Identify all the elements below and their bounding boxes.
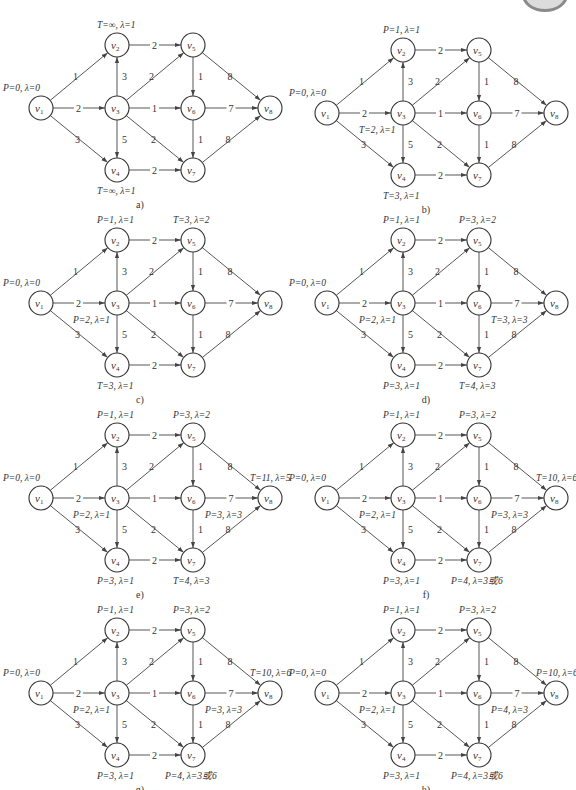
annotation-v1: P=0, λ=0 <box>288 278 326 288</box>
edge-weight-v1-v4: 3 <box>75 329 80 340</box>
edge-v3-v5 <box>126 53 184 101</box>
annotation-v2: P=1, λ=1 <box>96 215 134 225</box>
node-v3: v3 <box>391 291 415 315</box>
edge-weight-v1-v4: 3 <box>75 134 80 145</box>
edge-weight-v1-v4: 3 <box>361 524 366 535</box>
edge-weight-v3-v2: 3 <box>122 71 127 82</box>
edge-weight-v3-v4: 5 <box>408 524 413 535</box>
node-v2: v2 <box>391 423 415 447</box>
edge-weight-v3-v2: 3 <box>122 656 127 667</box>
edge-weight-v1-v2: 1 <box>73 71 78 82</box>
edge-v3-v5 <box>412 248 470 296</box>
annotation-v3: P=2, λ=1 <box>72 705 110 715</box>
edge-weight-v3-v4: 5 <box>408 139 413 150</box>
edge-weight-v7-v8: 8 <box>226 524 231 535</box>
node-v4: v4 <box>391 548 415 572</box>
annotation-v6: P=3, λ=3 <box>204 510 242 520</box>
edge-weight-v1-v4: 3 <box>361 139 366 150</box>
node-v8: v8 <box>258 291 282 315</box>
edge-weight-v3-v7: 2 <box>151 134 156 145</box>
edge-weight-v6-v8: 7 <box>515 298 520 309</box>
node-v3: v3 <box>105 486 129 510</box>
edge-weight-v1-v4: 3 <box>75 719 80 730</box>
edge-weight-v1-v3: 2 <box>362 298 367 309</box>
annotation-v6: P=3, λ=3 <box>204 705 242 715</box>
node-v1: v1 <box>29 681 53 705</box>
edge-weight-v5-v6: 1 <box>198 266 203 277</box>
edge-weight-v5-v6: 1 <box>484 656 489 667</box>
node-v3: v3 <box>105 96 129 120</box>
annotation-v5: T=3, λ=2 <box>173 215 210 225</box>
node-v8: v8 <box>258 681 282 705</box>
node-v6: v6 <box>181 681 205 705</box>
node-v1: v1 <box>315 681 339 705</box>
edge-weight-v6-v7: 1 <box>484 139 489 150</box>
edge-weight-v1-v3: 2 <box>76 298 81 309</box>
annotation-v8: P=10, λ=6 <box>535 668 576 678</box>
node-v5: v5 <box>181 423 205 447</box>
edge-v1-v2 <box>336 58 394 106</box>
node-v6: v6 <box>181 96 205 120</box>
edge-weight-v4-v7: 2 <box>152 165 157 176</box>
edge-weight-v3-v4: 5 <box>122 329 127 340</box>
edge-weight-v5-v8: 8 <box>514 266 519 277</box>
node-v6: v6 <box>467 291 491 315</box>
node-v8: v8 <box>544 291 568 315</box>
node-v6: v6 <box>467 681 491 705</box>
edge-weight-v2-v5: 2 <box>438 625 443 636</box>
edge-weight-v6-v7: 1 <box>484 719 489 730</box>
graph-panel-e: 123352212211878v1v2v3v4v5v6v7v8P=0, λ=0P… <box>0 390 290 585</box>
edge-weight-v7-v8: 8 <box>512 719 517 730</box>
node-v4: v4 <box>391 163 415 187</box>
node-v1: v1 <box>315 101 339 125</box>
edge-weight-v5-v6: 1 <box>484 461 489 472</box>
graph-panel-c: 123352212211878v1v2v3v4v5v6v7v8P=0, λ=0P… <box>0 195 290 390</box>
annotation-v1: P=0, λ=0 <box>288 88 326 98</box>
edge-weight-v5-v6: 1 <box>198 461 203 472</box>
annotation-v1: P=0, λ=0 <box>2 473 40 483</box>
node-v4: v4 <box>105 743 129 767</box>
edge-weight-v4-v7: 2 <box>438 750 443 761</box>
edge-weight-v3-v4: 5 <box>122 719 127 730</box>
graph-panel-a: 123352212211878v1v2v3v4v5v6v7v8P=0, λ=0T… <box>0 0 290 195</box>
edge-weight-v3-v5: 2 <box>149 71 154 82</box>
node-v2: v2 <box>391 38 415 62</box>
edge-weight-v3-v2: 3 <box>408 461 413 472</box>
node-v8: v8 <box>544 101 568 125</box>
edge-weight-v1-v3: 2 <box>362 688 367 699</box>
edge-weight-v5-v8: 8 <box>228 71 233 82</box>
node-v5: v5 <box>467 38 491 62</box>
annotation-v6: T=3, λ=3 <box>491 315 528 325</box>
edge-weight-v3-v4: 5 <box>408 719 413 730</box>
edge-weight-v1-v4: 3 <box>361 329 366 340</box>
edge-v1-v2 <box>50 443 108 491</box>
edge-weight-v6-v7: 1 <box>484 524 489 535</box>
edge-weight-v7-v8: 8 <box>226 329 231 340</box>
node-v8: v8 <box>258 486 282 510</box>
annotation-v1: P=0, λ=0 <box>2 668 40 678</box>
edge-weight-v2-v5: 2 <box>152 40 157 51</box>
annotation-v1: P=0, λ=0 <box>2 278 40 288</box>
annotation-v3: P=2, λ=1 <box>72 315 110 325</box>
annotation-v5: P=3, λ=2 <box>172 605 210 615</box>
edge-v1-v2 <box>336 248 394 296</box>
node-v4: v4 <box>105 548 129 572</box>
annotation-v5: P=3, λ=2 <box>172 410 210 420</box>
node-v2: v2 <box>391 618 415 642</box>
annotation-v2: T=∞, λ=1 <box>97 20 136 30</box>
node-v1: v1 <box>29 291 53 315</box>
edge-weight-v4-v7: 2 <box>152 360 157 371</box>
annotation-v7: P=4, λ=3或6 <box>164 771 217 781</box>
edge-weight-v1-v2: 1 <box>359 461 364 472</box>
annotation-v2: P=1, λ=1 <box>382 605 420 615</box>
edge-weight-v3-v5: 2 <box>149 266 154 277</box>
edge-weight-v1-v2: 1 <box>73 461 78 472</box>
edge-v1-v2 <box>336 443 394 491</box>
edge-weight-v3-v7: 2 <box>151 524 156 535</box>
edge-weight-v3-v4: 5 <box>122 134 127 145</box>
node-v7: v7 <box>181 353 205 377</box>
annotation-v4: P=3, λ=1 <box>382 771 420 781</box>
edge-weight-v1-v2: 1 <box>359 76 364 87</box>
annotation-v5: P=3, λ=2 <box>458 605 496 615</box>
edge-weight-v3-v7: 2 <box>151 719 156 730</box>
